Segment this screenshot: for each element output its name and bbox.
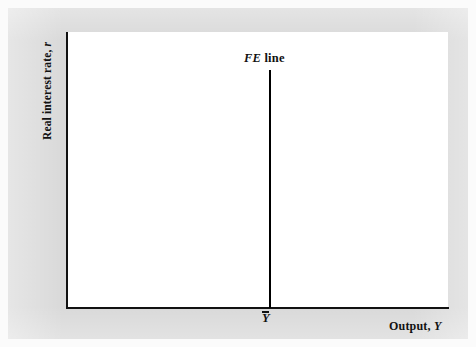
figure-container: FE line Y Output, Y Real interest rate, … [0,0,476,347]
plot-area [67,32,448,308]
fe-line-curve [269,70,271,308]
y-axis-title-text: Real interest rate, [41,50,53,140]
y-axis-title: Real interest rate, r [42,42,54,140]
y-bar-symbol: Y [262,311,270,325]
fe-label-word: line [264,51,284,65]
x-axis-title-text: Output, [389,319,431,333]
output-tick-label: Y [262,311,270,325]
x-axis-line [66,307,449,309]
fe-line-label: FE line [244,52,285,65]
fe-label-symbol: FE [244,51,261,65]
y-axis-title-symbol: r [41,42,53,47]
x-axis-title-symbol: Y [434,319,442,333]
y-axis-line [66,32,68,309]
x-axis-title: Output, Y [389,320,441,332]
